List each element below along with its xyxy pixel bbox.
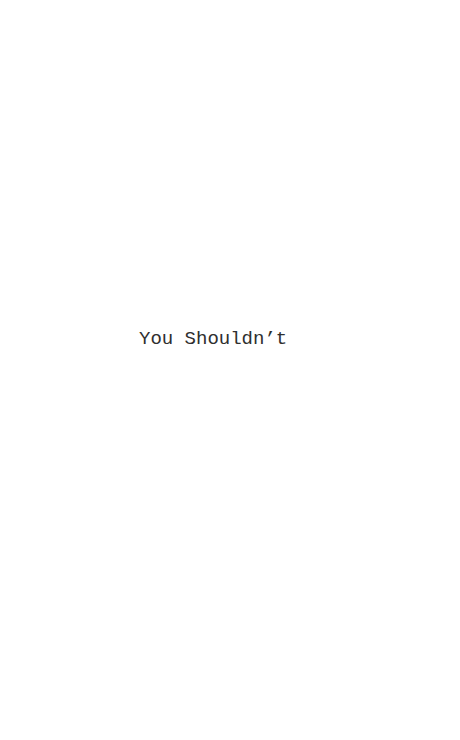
- page-title: You Shouldn’t: [139, 326, 287, 352]
- document-page: You Shouldn’t: [0, 0, 460, 740]
